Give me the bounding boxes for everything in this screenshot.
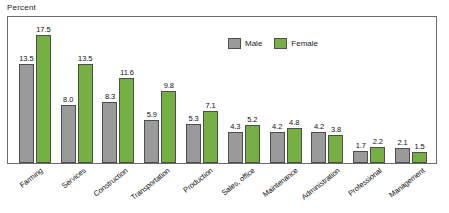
x-axis-tick-label: Sales, office	[220, 166, 257, 197]
bar-rect	[245, 125, 260, 163]
x-axis-tick-label: Production	[182, 166, 215, 195]
bar-female: 9.8	[161, 17, 176, 163]
x-axis-tick-label: Services	[60, 166, 88, 190]
x-axis-tick-label: Construction	[92, 166, 130, 198]
x-axis-tick-label: Professional	[346, 166, 383, 198]
bar-value-label: 4.8	[289, 119, 299, 127]
bar-female: 13.5	[78, 17, 93, 163]
bar-rect	[144, 120, 159, 163]
bar-group: 5.99.8	[139, 17, 181, 163]
bar-rect	[78, 64, 93, 163]
bar-rect	[61, 105, 76, 163]
legend-label-male: Male	[245, 39, 262, 48]
bar-rect	[412, 152, 427, 163]
bar-group: 2.11.5	[390, 17, 432, 163]
bar-group: 13.517.5	[14, 17, 56, 163]
y-axis-title: Percent	[7, 3, 36, 12]
x-axis-tick-label: Management	[387, 166, 426, 199]
bar-male: 2.1	[395, 17, 410, 163]
bar-group: 1.72.2	[348, 17, 390, 163]
bar-value-label: 8.3	[105, 93, 115, 101]
bar-value-label: 5.3	[189, 115, 199, 123]
bar-chart: Percent 13.517.58.013.58.311.65.99.85.37…	[0, 0, 449, 213]
bar-rect	[102, 102, 117, 163]
bar-value-label: 13.5	[78, 55, 92, 63]
chart-legend: Male Female	[228, 38, 318, 49]
bar-value-label: 4.2	[272, 123, 282, 131]
bar-value-label: 9.8	[164, 82, 174, 90]
legend-swatch-male-icon	[228, 38, 241, 49]
bar-value-label: 11.6	[120, 69, 134, 77]
bar-rect	[19, 64, 34, 163]
bar-value-label: 8.0	[63, 96, 73, 104]
bar-value-label: 2.2	[373, 138, 383, 146]
bar-male: 1.7	[353, 17, 368, 163]
bar-female: 3.8	[328, 17, 343, 163]
bar-value-label: 2.1	[397, 139, 407, 147]
x-axis-labels: FarmingServicesConstructionTransportatio…	[13, 166, 437, 213]
legend-item-male: Male	[228, 38, 262, 49]
bar-female: 17.5	[36, 17, 51, 163]
bar-rect	[270, 132, 285, 163]
legend-swatch-female-icon	[274, 38, 287, 49]
bar-rect	[161, 91, 176, 163]
bar-male: 8.3	[102, 17, 117, 163]
bar-rect	[203, 111, 218, 163]
x-axis-tick-label: Administration	[300, 166, 342, 201]
bar-value-label: 3.8	[331, 126, 341, 134]
legend-label-female: Female	[291, 39, 318, 48]
bar-group: 8.311.6	[98, 17, 140, 163]
bar-value-label: 4.3	[230, 123, 240, 131]
bar-rect	[186, 124, 201, 163]
bar-value-label: 13.5	[19, 55, 33, 63]
bar-value-label: 1.5	[414, 143, 424, 151]
bar-value-label: 5.9	[147, 111, 157, 119]
bar-group: 8.013.5	[56, 17, 98, 163]
bar-group: 5.37.1	[181, 17, 223, 163]
bar-rect	[228, 132, 243, 163]
bar-value-label: 4.2	[314, 123, 324, 131]
plot-area: 13.517.58.013.58.311.65.99.85.37.14.35.2…	[7, 16, 437, 164]
bar-groups: 13.517.58.013.58.311.65.99.85.37.14.35.2…	[14, 17, 432, 163]
bar-value-label: 1.7	[356, 142, 366, 150]
bar-male: 5.3	[186, 17, 201, 163]
x-axis-tick-label: Maintenance	[261, 166, 300, 199]
bar-rect	[353, 151, 368, 163]
bar-rect	[328, 135, 343, 163]
x-axis-tick-label: Transportation	[129, 166, 171, 202]
bar-rect	[36, 35, 51, 163]
bar-rect	[395, 148, 410, 163]
bar-rect	[311, 132, 326, 163]
x-axis-tick-label: Farming	[18, 166, 45, 190]
legend-item-female: Female	[274, 38, 318, 49]
bar-value-label: 7.1	[206, 102, 216, 110]
bar-value-label: 17.5	[36, 26, 50, 34]
bar-rect	[119, 78, 134, 163]
bar-female: 11.6	[119, 17, 134, 163]
bar-value-label: 5.2	[247, 116, 257, 124]
bar-female: 1.5	[412, 17, 427, 163]
bar-female: 2.2	[370, 17, 385, 163]
plot-inner: 13.517.58.013.58.311.65.99.85.37.14.35.2…	[8, 17, 436, 163]
bar-rect	[370, 147, 385, 163]
bar-male: 13.5	[19, 17, 34, 163]
bar-male: 8.0	[61, 17, 76, 163]
bar-male: 5.9	[144, 17, 159, 163]
bar-rect	[287, 128, 302, 163]
bar-female: 7.1	[203, 17, 218, 163]
